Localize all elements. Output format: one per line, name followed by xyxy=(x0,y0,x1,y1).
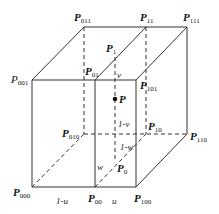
point-p-dot xyxy=(113,97,118,102)
solid-edge xyxy=(136,134,187,187)
label-p111: P111 xyxy=(183,11,200,25)
label-p011: P011 xyxy=(74,11,91,25)
param-label: 1-u xyxy=(56,196,68,206)
solid-edge xyxy=(136,27,187,80)
label-p10: P10 xyxy=(148,120,162,134)
param-label: 1-v xyxy=(118,119,130,129)
param-label: 1-w xyxy=(120,142,134,152)
interpolated-point-labels: P00P01P10P11P0P1P xyxy=(85,11,162,206)
label-p1: P1 xyxy=(106,42,117,56)
vertex-labels: P000P100P010P110P001P101P011P111 xyxy=(10,11,207,206)
label-p11: P11 xyxy=(140,11,154,25)
label-p: P xyxy=(119,93,126,105)
point-markers xyxy=(113,97,118,102)
label-p000: P000 xyxy=(13,186,31,200)
param-label: u xyxy=(112,196,117,206)
dashed-edge xyxy=(32,134,84,187)
label-p01: P01 xyxy=(85,65,99,79)
label-p010: P010 xyxy=(62,127,80,141)
label-p101: P101 xyxy=(140,79,158,93)
param-label: w xyxy=(97,162,103,172)
label-p00: P00 xyxy=(88,192,102,206)
label-p001: P001 xyxy=(10,73,29,87)
solid-edge xyxy=(32,27,84,80)
label-p100: P100 xyxy=(134,192,152,206)
label-p110: P110 xyxy=(190,130,207,144)
trilinear-cube-diagram: P000P100P010P110P001P101P011P111 P00P01P… xyxy=(0,0,219,214)
param-label: v xyxy=(117,70,121,80)
label-p0: P0 xyxy=(117,162,128,176)
